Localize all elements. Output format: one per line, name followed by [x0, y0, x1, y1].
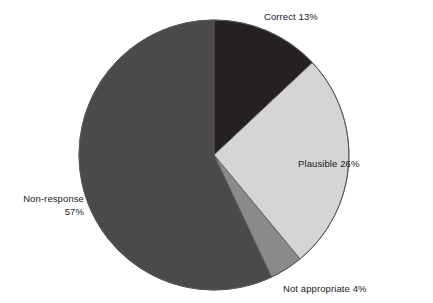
pie-chart-canvas	[0, 0, 433, 303]
pie-label-non-response-line2: 57%	[65, 206, 84, 217]
pie-label-non-response-line1: Non-response	[23, 193, 84, 204]
pie-label-non-response: Non-response 57%	[10, 192, 84, 218]
pie-label-not-appropriate: Not appropriate 4%	[283, 282, 367, 295]
pie-slices	[79, 20, 349, 290]
pie-label-plausible: Plausible 26%	[298, 157, 360, 170]
pie-label-correct: Correct 13%	[264, 10, 318, 23]
pie-chart-figure: Correct 13% Plausible 26% Not appropriat…	[0, 0, 433, 303]
